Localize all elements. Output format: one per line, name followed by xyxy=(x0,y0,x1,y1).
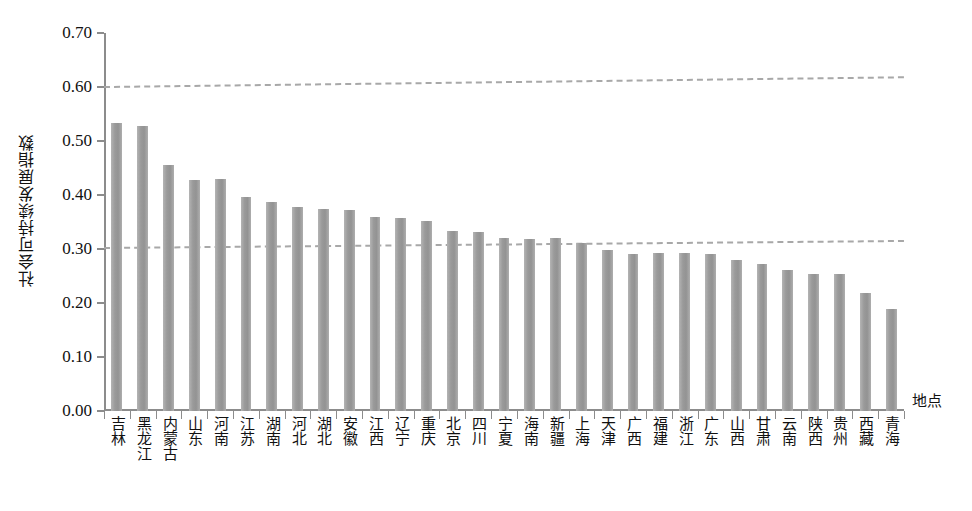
bar xyxy=(653,253,664,411)
x-axis-category-label: 河北 xyxy=(290,416,305,446)
x-axis-category-label: 广西 xyxy=(626,416,641,446)
y-axis-tick-label: 0.50 xyxy=(62,131,92,151)
y-axis-tick-label: 0.00 xyxy=(62,401,92,421)
bar xyxy=(860,293,871,411)
x-axis-category-label: 江西 xyxy=(367,416,382,446)
x-axis-category-label: 海南 xyxy=(522,416,537,446)
bar xyxy=(499,238,510,411)
bar xyxy=(705,254,716,411)
y-axis-tick-mark xyxy=(97,410,104,412)
y-axis-tick-mark xyxy=(97,302,104,304)
bar xyxy=(137,126,148,411)
sustainable-development-index-bar-chart: 社会可持续发展指数 0.700.600.500.400.300.200.100.… xyxy=(0,0,972,511)
bar xyxy=(834,274,845,411)
bar xyxy=(395,218,406,411)
x-axis-category-label: 北京 xyxy=(445,416,460,446)
x-axis-category-labels: 吉林黑龙江内蒙古山东河南江苏湖南河北湖北安徽江西辽宁重庆北京四川宁夏海南新疆上海… xyxy=(104,416,904,488)
bar xyxy=(576,243,587,411)
x-axis-category-label: 云南 xyxy=(780,416,795,446)
x-axis-tick-mark xyxy=(904,411,905,419)
x-axis-category-label: 辽宁 xyxy=(393,416,408,446)
x-axis-category-label: 黑龙江 xyxy=(135,416,150,461)
y-axis-tick-label: 0.40 xyxy=(62,185,92,205)
x-axis-category-label: 安徽 xyxy=(342,416,357,446)
bar xyxy=(473,232,484,411)
x-axis-category-label: 山西 xyxy=(729,416,744,446)
x-axis-title-label: 地点 xyxy=(912,389,942,410)
x-axis-category-label: 内蒙古 xyxy=(161,416,176,461)
y-axis-title-label: 社会可持续发展指数 xyxy=(16,134,40,287)
x-axis-category-label: 天津 xyxy=(600,416,615,446)
y-axis-tick-label: 0.30 xyxy=(62,239,92,259)
x-axis-category-label: 湖北 xyxy=(316,416,331,446)
x-axis-category-label: 西藏 xyxy=(858,416,873,446)
x-axis-category-label: 青海 xyxy=(884,416,899,446)
y-axis-tick-label: 0.70 xyxy=(62,23,92,43)
y-axis-tick-mark xyxy=(97,86,104,88)
bar xyxy=(679,253,690,411)
y-axis-tick-label: 0.60 xyxy=(62,77,92,97)
x-axis-category-label: 上海 xyxy=(574,416,589,446)
y-axis-tick-label: 0.10 xyxy=(62,347,92,367)
x-axis-category-label: 贵州 xyxy=(832,416,847,446)
x-axis-category-label: 四川 xyxy=(471,416,486,446)
x-axis-category-label: 江苏 xyxy=(238,416,253,446)
x-axis-category-label: 宁夏 xyxy=(497,416,512,446)
bar xyxy=(550,238,561,411)
bar xyxy=(370,217,381,411)
y-axis-tick-mark xyxy=(97,140,104,142)
x-axis-category-label: 甘肃 xyxy=(755,416,770,446)
bar xyxy=(292,207,303,411)
bar xyxy=(163,165,174,411)
bar xyxy=(215,179,226,411)
bar xyxy=(757,264,768,411)
x-axis-category-label: 湖南 xyxy=(264,416,279,446)
bar xyxy=(421,221,432,411)
x-axis-category-label: 浙江 xyxy=(677,416,692,446)
x-axis-category-label: 广东 xyxy=(703,416,718,446)
x-axis-category-label: 重庆 xyxy=(419,416,434,446)
bar xyxy=(731,260,742,411)
y-axis-tick-mark xyxy=(97,194,104,196)
bar xyxy=(782,270,793,411)
x-axis-category-label: 陕西 xyxy=(806,416,821,446)
y-axis-tick-mark xyxy=(97,248,104,250)
x-axis-category-label: 吉林 xyxy=(109,416,124,446)
x-axis-category-label: 河南 xyxy=(213,416,228,446)
bar xyxy=(808,274,819,411)
bar xyxy=(266,202,277,411)
bar xyxy=(111,123,122,411)
bar xyxy=(318,209,329,411)
bar-series xyxy=(104,33,904,411)
y-axis-tick-label: 0.20 xyxy=(62,293,92,313)
y-axis-tick-mark xyxy=(97,356,104,358)
bar xyxy=(241,197,252,411)
plot-area xyxy=(104,33,904,411)
bar xyxy=(628,254,639,411)
bar xyxy=(189,180,200,411)
x-axis-category-label: 福建 xyxy=(651,416,666,446)
y-axis-tick-mark xyxy=(97,32,104,34)
bar xyxy=(524,239,535,411)
x-axis-category-label: 新疆 xyxy=(548,416,563,446)
bar xyxy=(886,309,897,411)
bar xyxy=(447,231,458,411)
y-axis-tick-labels: 0.700.600.500.400.300.200.100.00 xyxy=(42,33,98,411)
x-axis-category-label: 山东 xyxy=(187,416,202,446)
bar xyxy=(344,210,355,411)
bar xyxy=(602,250,613,411)
